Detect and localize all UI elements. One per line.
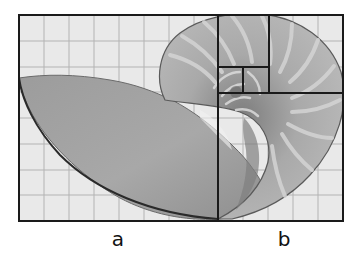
segment-label-b: b xyxy=(278,229,291,249)
segment-label-a: a xyxy=(112,229,124,249)
nautilus-diagram-canvas xyxy=(0,0,361,263)
golden-ratio-nautilus-figure: a b xyxy=(0,0,361,263)
